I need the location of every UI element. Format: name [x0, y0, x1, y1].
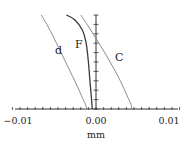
curve-d [41, 15, 87, 109]
chart: d F C −0.01 0.00 0.01 mm [0, 0, 186, 145]
chart-svg: d F C −0.01 0.00 0.01 mm [0, 0, 186, 145]
x-axis-label: mm [87, 129, 105, 140]
curve-label-c: C [115, 51, 123, 64]
x-tick-label-zero: 0.00 [85, 115, 106, 126]
x-tick-label-neg: −0.01 [3, 115, 32, 126]
curve-f [66, 15, 92, 109]
x-tick-label-pos: 0.01 [158, 115, 179, 126]
curve-label-d: d [55, 44, 62, 57]
curve-label-f: F [75, 38, 83, 51]
y-axis [94, 15, 99, 109]
